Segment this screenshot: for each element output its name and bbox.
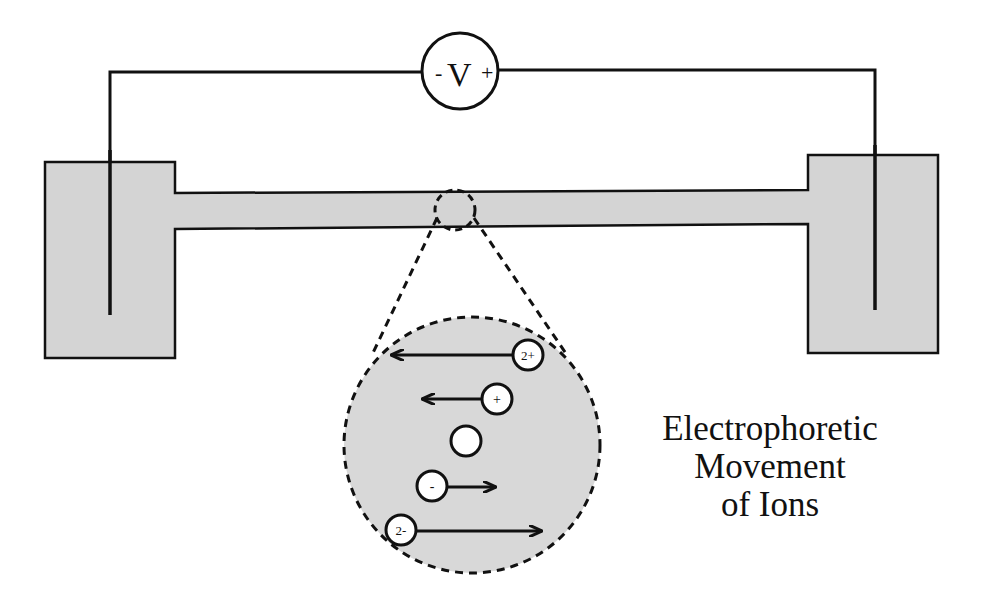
electrophoresis-diagram: - V + 2+ + - 2- Electrophoretic Movement…: [0, 0, 989, 609]
caption: Electrophoretic Movement of Ions: [620, 410, 920, 524]
ion-minus-label: -: [430, 479, 435, 494]
caption-line-2: Movement: [620, 448, 920, 486]
voltmeter-minus: -: [435, 60, 442, 85]
voltmeter-symbol: V: [447, 56, 472, 93]
ion-2minus-label: 2-: [396, 523, 407, 538]
voltmeter-plus: +: [481, 60, 493, 85]
ion-2plus-label: 2+: [521, 348, 535, 363]
ion-neutral: [451, 426, 481, 456]
ion-plus-label: +: [493, 392, 501, 407]
caption-line-3: of Ions: [620, 486, 920, 524]
caption-line-1: Electrophoretic: [620, 410, 920, 448]
